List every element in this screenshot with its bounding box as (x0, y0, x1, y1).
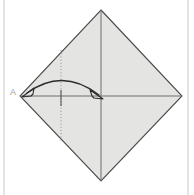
vertex-label-a: A (10, 87, 16, 97)
origami-diagram-canvas: Origami fold step diagram A (0, 0, 194, 195)
origami-figure: Origami fold step diagram A (0, 0, 194, 195)
